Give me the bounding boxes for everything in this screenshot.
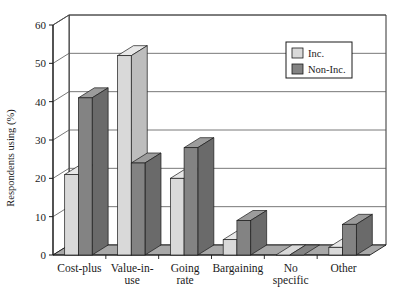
category-label-going-rate: rate <box>176 274 193 286</box>
category-label-no-specific: specific <box>273 274 309 287</box>
category-label-other: Other <box>330 262 356 274</box>
bar-front-face <box>131 163 145 255</box>
y-axis-tick-label: 10 <box>35 211 47 223</box>
legend-label-non-inc-: Non-Inc. <box>308 64 346 75</box>
y-axis-tick-label: 40 <box>35 96 47 108</box>
bar-front-face <box>223 240 237 255</box>
bar-front-face <box>170 178 184 255</box>
bar-front-face <box>118 56 132 255</box>
y-axis-tick-label: 50 <box>35 57 47 69</box>
y-axis-tick-label: 60 <box>35 19 47 31</box>
y-axis-tick-label: 0 <box>41 249 47 261</box>
bar-front-face <box>343 224 357 255</box>
bar-side-face <box>198 138 214 255</box>
bar-side-face <box>145 153 161 255</box>
category-label-value-in-use: use <box>125 274 140 286</box>
category-label-no-specific: No <box>284 262 298 274</box>
bar-front-face <box>329 247 343 255</box>
chart-canvas: 0102030405060Cost-plusValue-in-useGoingr… <box>0 0 414 291</box>
bar-chart-figure: 0102030405060Cost-plusValue-in-useGoingr… <box>0 0 414 291</box>
category-label-cost-plus: Cost-plus <box>57 262 102 275</box>
bar-cost-plus-non-inc- <box>78 88 108 255</box>
legend-swatch-inc- <box>292 48 303 58</box>
bar-going-rate-non-inc- <box>184 138 214 255</box>
category-label-bargaining: Bargaining <box>212 262 263 275</box>
y-axis-tick-label: 30 <box>35 134 47 146</box>
bar-front-face <box>78 98 92 255</box>
bar-front-face <box>184 148 198 255</box>
category-label-value-in-use: Value-in- <box>111 262 154 274</box>
y-axis-title: Respondents using (%) <box>5 109 17 207</box>
bar-side-face <box>92 88 108 255</box>
legend-swatch-non-inc- <box>292 64 303 74</box>
bar-value-in-use-non-inc- <box>131 153 161 255</box>
y-axis-tick-label: 20 <box>35 172 47 184</box>
legend-label-inc-: Inc. <box>308 48 324 59</box>
bar-front-face <box>65 175 79 256</box>
bar-front-face <box>237 221 251 256</box>
